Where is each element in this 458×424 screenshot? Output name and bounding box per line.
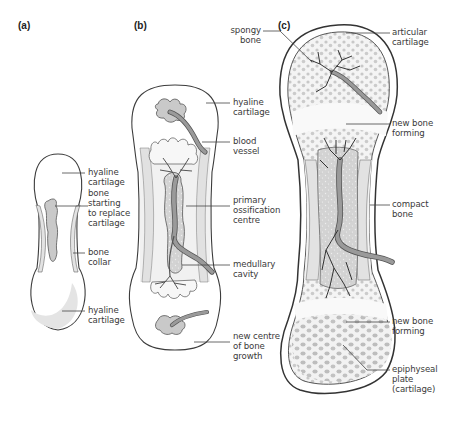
label-c-epiphyseal-plate: epiphyseal plate (cartilage) <box>392 364 438 394</box>
panel-label-c: (c) <box>278 20 290 31</box>
label-b-new-centre-bone-growth: new centre of bone growth <box>233 331 280 361</box>
panel-c-bone <box>263 25 397 394</box>
label-c-articular-cartilage: articular cartilage <box>392 27 429 47</box>
panel-label-b: (b) <box>134 20 147 31</box>
panel-b-bone <box>129 85 230 350</box>
label-c-spongy-bone: spongy bone <box>221 25 261 45</box>
label-c-compact-bone: compact bone <box>392 199 428 219</box>
label-c-new-bone-forming-bottom: new bone forming <box>392 316 433 336</box>
label-b-hyaline-cartilage: hyaline cartilage <box>233 97 270 117</box>
label-a-hyaline-cartilage-top: hyaline cartilage <box>88 167 125 187</box>
label-c-new-bone-forming-top: new bone forming <box>392 118 433 138</box>
label-a-hyaline-cartilage-bottom: hyaline cartilage <box>88 305 125 325</box>
label-a-bone-collar: bone collar <box>88 247 111 267</box>
label-b-medullary-cavity: medullary cavity <box>233 259 275 279</box>
panel-label-a: (a) <box>18 20 30 31</box>
bone-ossification-diagram: (a) (b) (c) hyaline cartilage bone start… <box>0 0 458 424</box>
panel-a-bone <box>31 154 88 330</box>
label-b-primary-ossification-centre: primary ossification centre <box>233 195 280 225</box>
label-b-blood-vessel: blood vessel <box>233 136 259 156</box>
label-a-bone-replacing-cartilage: bone starting to replace cartilage <box>88 188 130 228</box>
